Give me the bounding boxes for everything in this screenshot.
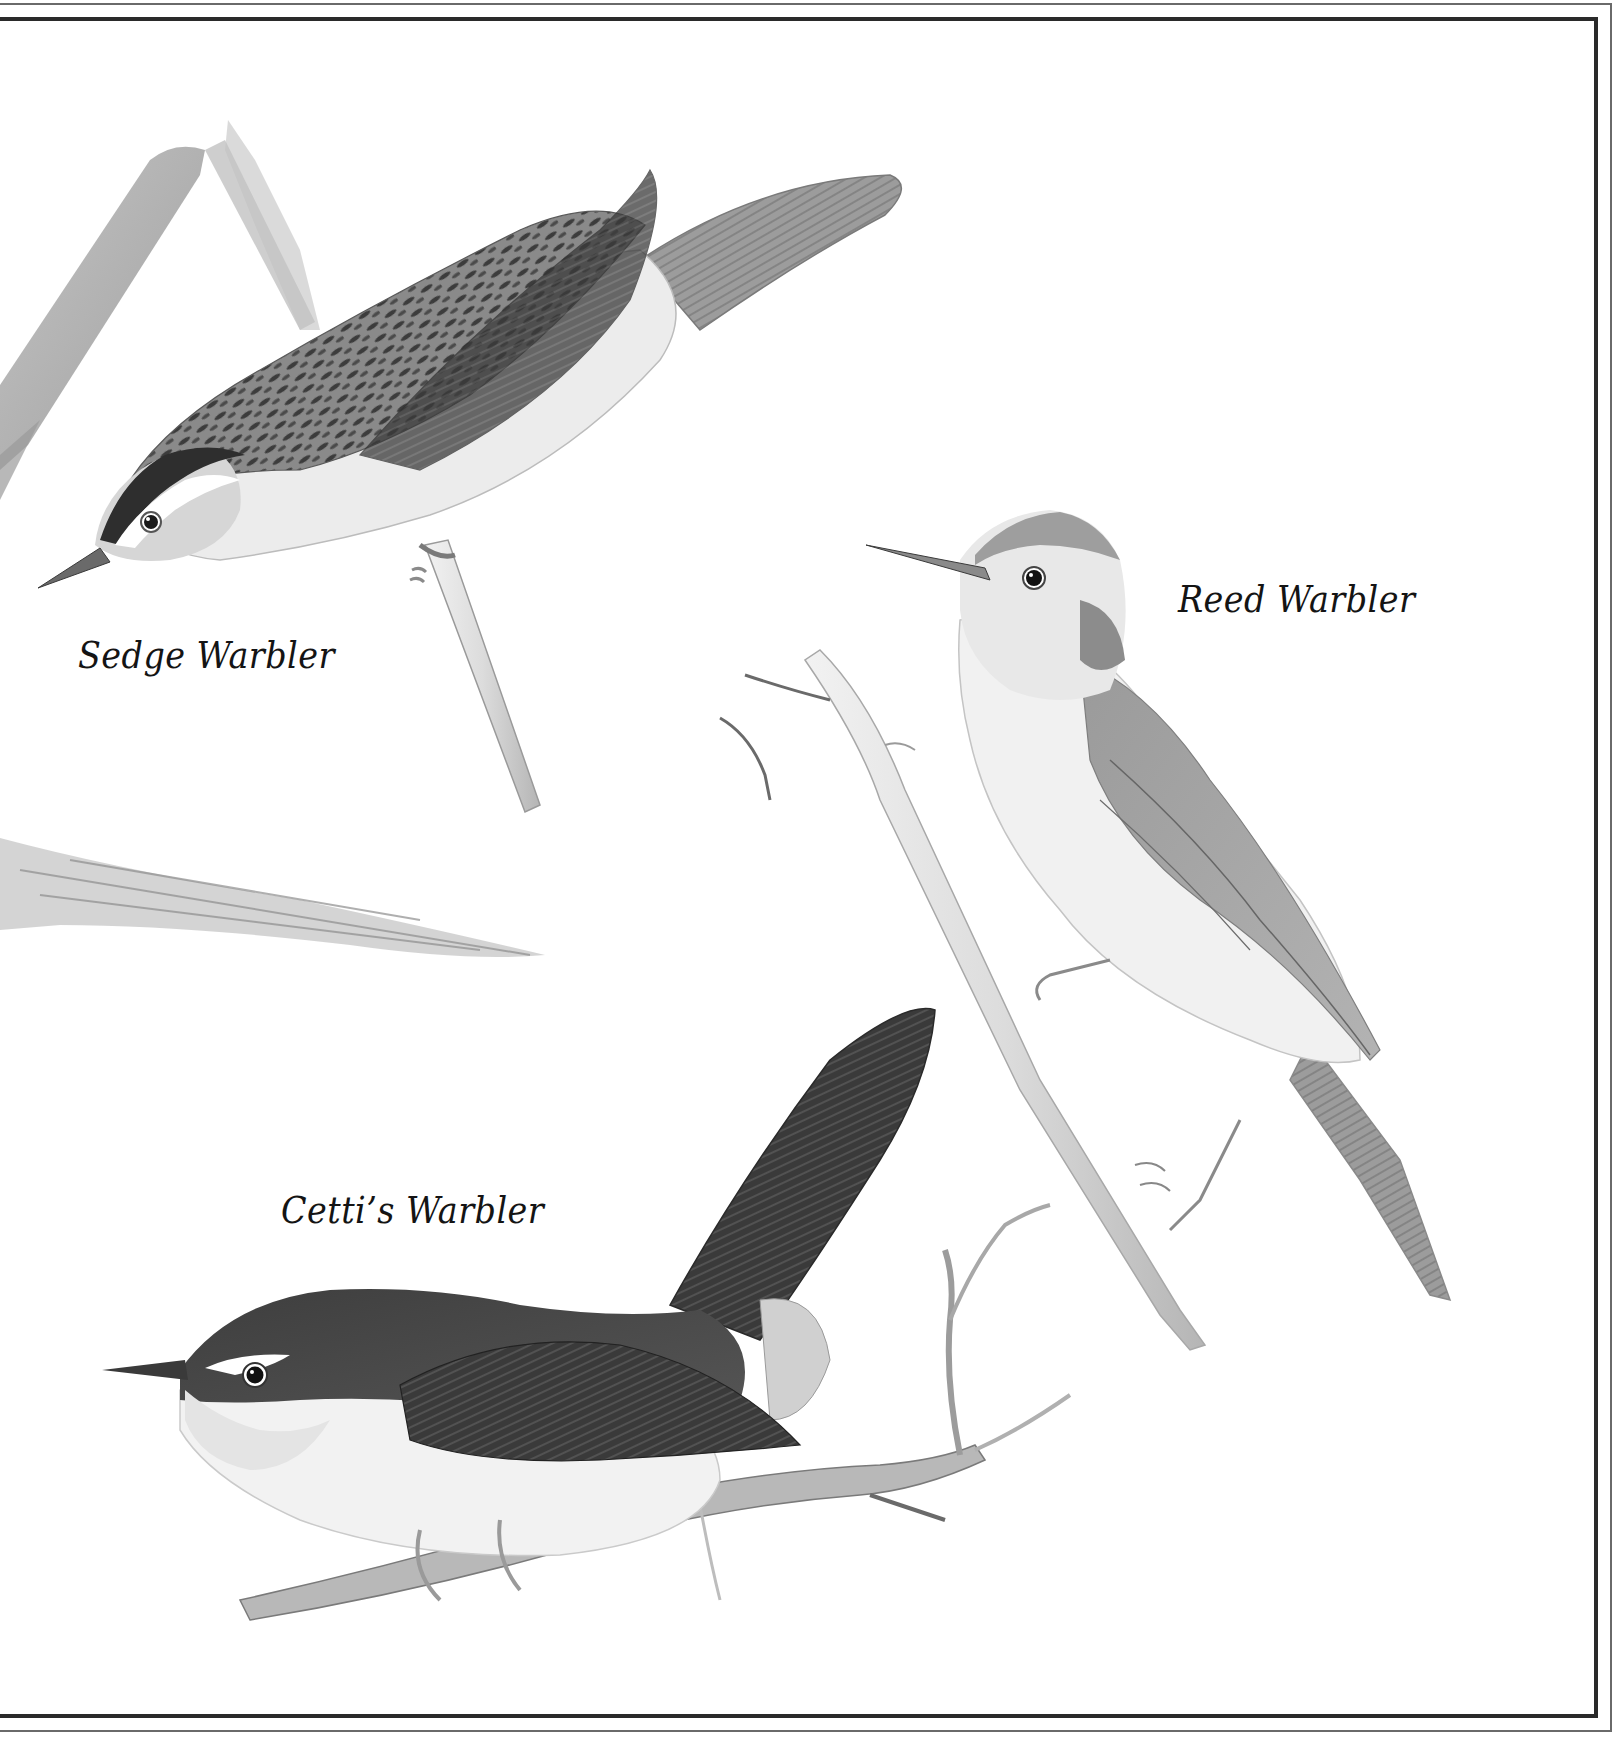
cettis-warbler-bird [102, 1009, 935, 1600]
sedge-perch-stem [425, 540, 540, 812]
illustration-plate: Sedge Warbler Reed Warbler Cetti’s Warbl… [0, 0, 1623, 1750]
bird-illustrations [0, 0, 1623, 1750]
caption-reed-warbler: Reed Warbler [1178, 577, 1415, 621]
caption-cettis-warbler: Cetti’s Warbler [281, 1188, 544, 1232]
reed-leaf-feather-strip [0, 838, 545, 957]
sedge-warbler-bird [38, 170, 901, 588]
caption-sedge-warbler: Sedge Warbler [78, 633, 335, 677]
